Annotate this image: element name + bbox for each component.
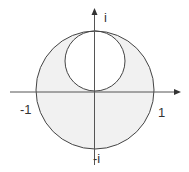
imaginary-axis-arrow-icon (92, 8, 98, 15)
label-neg-1: -1 (20, 102, 32, 117)
label-i: i (104, 10, 107, 25)
complex-plane-diagram: i -1 1 -i (0, 0, 189, 172)
label-1: 1 (158, 105, 165, 120)
diagram-canvas: i -1 1 -i (0, 0, 189, 172)
label-neg-i: -i (93, 151, 100, 166)
real-axis-arrow-icon (174, 89, 181, 95)
